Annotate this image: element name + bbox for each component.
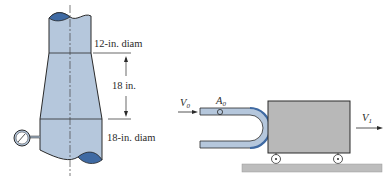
top-diameter-label: 12-in. diam xyxy=(94,38,142,49)
arrow-up-icon xyxy=(124,56,128,62)
outlet-velocity: V1 xyxy=(356,112,383,130)
wheel-icon xyxy=(272,153,281,164)
v0-label: V0 xyxy=(180,97,190,110)
arrow-down-icon xyxy=(124,111,128,117)
bottom-diameter-label: 18-in. diam xyxy=(107,132,155,143)
cart xyxy=(268,101,350,164)
arrow-right-icon xyxy=(192,110,198,114)
u-bend-pipe: A0 xyxy=(200,95,270,148)
height-label: 18 in. xyxy=(112,80,136,91)
a0-label: A0 xyxy=(215,95,226,108)
ground xyxy=(242,164,382,172)
inlet-velocity: V0 xyxy=(178,97,198,114)
tapered-pipe xyxy=(40,5,102,176)
figure-canvas: 12-in. diam 18 in. 18-in. diam V0 A0 V1 xyxy=(0,0,391,187)
wheel-icon xyxy=(334,153,343,164)
v1-label: V1 xyxy=(362,112,372,125)
pressure-gauge-icon xyxy=(14,130,40,146)
arrow-right-icon xyxy=(377,126,383,130)
